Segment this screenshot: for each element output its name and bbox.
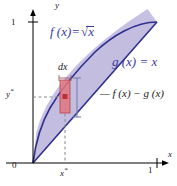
f-equals-text: = (71, 24, 80, 39)
y-star-superscript: * (10, 87, 14, 95)
x-tick-label-1: 1 (148, 166, 153, 175)
y-tick-label-1: 1 (11, 18, 16, 27)
sample-point-marker (63, 94, 68, 99)
sqrt-group: √x (80, 25, 94, 38)
origin-label: 0 (12, 161, 17, 170)
x-star-superscript: * (64, 166, 68, 174)
x-axis-arrow (162, 160, 169, 166)
dx-label: dx (58, 62, 67, 72)
y-axis-arrow (30, 9, 36, 16)
curve-label-f: f (x)=√x (50, 25, 94, 38)
y-axis-label: y (55, 1, 59, 10)
f-name-text: f (x) (50, 24, 71, 39)
curve-label-g: g (x) = x (112, 55, 157, 68)
x-axis-label: x (168, 150, 172, 159)
difference-label: — f (x) − g (x) (100, 88, 164, 99)
y-star-label: y* (6, 88, 14, 99)
x-star-label: x* (60, 167, 68, 178)
area-between-curves-figure: f (x)=√x g (x) = x dx — f (x) − g (x) y … (0, 0, 177, 186)
radical-overbar (86, 26, 94, 27)
